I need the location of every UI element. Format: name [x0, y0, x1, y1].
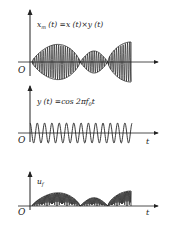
- origin-label: O: [18, 207, 26, 217]
- origin-label: O: [18, 135, 26, 145]
- panel-label-modulated: xm (t) =x (t)×y (t): [37, 20, 103, 30]
- signal-diagram: O xm (t) =x (t)×y (t) O t y (t) =cos 2πf…: [0, 0, 171, 229]
- panel-label-carrier: y (t) =cos 2πf0t: [36, 97, 96, 107]
- panel-label-rectified: uf: [37, 177, 45, 188]
- t-axis-label: t: [146, 137, 150, 146]
- rectified-waveform: [32, 191, 131, 206]
- t-axis-label: t: [146, 208, 150, 217]
- modulated-waveform: [32, 42, 131, 82]
- panel-modulated: O xm (t) =x (t)×y (t): [18, 10, 158, 82]
- origin-label: O: [18, 65, 26, 75]
- panel-carrier: O t y (t) =cos 2πf0t: [18, 86, 158, 146]
- panel-rectified: O t uf: [18, 172, 158, 217]
